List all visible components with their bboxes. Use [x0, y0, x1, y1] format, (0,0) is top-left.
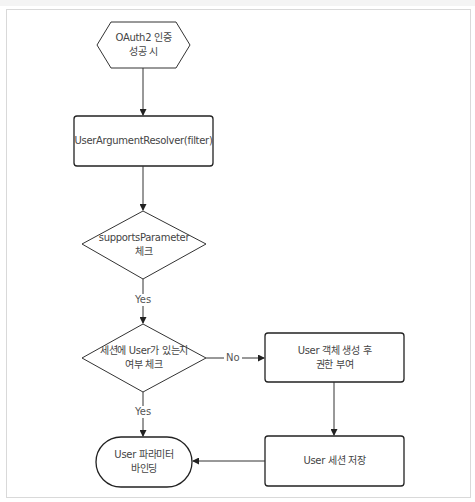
flowchart-canvas: [0, 0, 475, 502]
edge-label-session-no: No: [224, 352, 242, 364]
edge-label-session-yes: Yes: [133, 406, 153, 418]
supports-check-label: supportsParameter 체크: [82, 211, 206, 279]
create-user-label: User 객체 생성 후 권한 부여: [265, 333, 404, 382]
bind-param-label: User 파라미터 바인딩: [96, 437, 192, 487]
session-check-label: 세션에 User가 있는지 여부 체크: [82, 324, 206, 392]
resolver-label: UserArgumentResolver(filter): [74, 116, 213, 166]
edge-label-supports-yes: Yes: [133, 294, 153, 306]
start-label: OAuth2 인증 성공 시: [97, 22, 190, 68]
save-session-label: User 세션 저장: [265, 436, 404, 486]
